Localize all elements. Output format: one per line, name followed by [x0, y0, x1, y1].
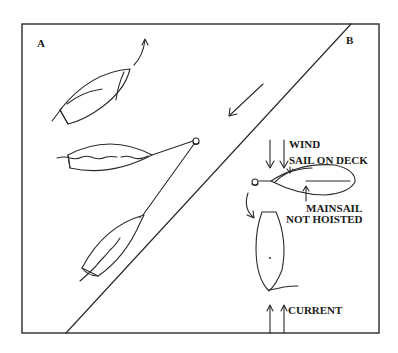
diagram-frame — [22, 24, 379, 333]
panel-divider — [66, 24, 351, 333]
anchoring-diagram: A B WIND SAIL ON — [0, 0, 398, 353]
mainsail-label-line2: NOT HOISTED — [286, 213, 363, 225]
wind-arrows-icon — [266, 140, 288, 168]
current-arrows-icon — [267, 305, 287, 333]
drift-arrow-icon — [229, 84, 263, 116]
wind-label: WIND — [289, 138, 320, 150]
current-label: CURRENT — [288, 304, 343, 316]
swing-arrow-icon — [246, 193, 254, 218]
panel-label-b: B — [346, 34, 354, 46]
anchor-rode — [152, 141, 193, 155]
boat-a-anchored — [57, 141, 193, 171]
boat-a-sailing — [52, 39, 148, 124]
panel-label-a: A — [37, 37, 45, 49]
anchor-icon-b — [252, 179, 258, 186]
boat-b-anchored — [259, 165, 355, 195]
course-arrow-icon — [134, 40, 145, 65]
boat-a-drifting — [80, 215, 144, 281]
